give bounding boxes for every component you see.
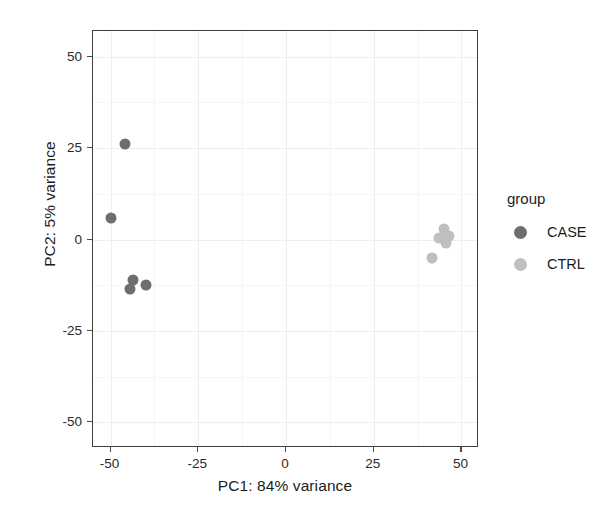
gridline-horizontal-minor [93, 194, 477, 195]
gridline-horizontal [93, 148, 477, 149]
plot-panel [92, 30, 478, 447]
gridline-vertical-minor [242, 31, 243, 446]
y-tick-mark [87, 56, 92, 57]
gridline-vertical-minor [154, 31, 155, 446]
pca-scatter-plot: PC2: 5% variance -50-2502550-50-2502550 … [0, 0, 609, 516]
y-tick-mark [87, 147, 92, 148]
y-tick-mark [87, 330, 92, 331]
x-tick-mark [197, 447, 198, 452]
data-point-ctrl [440, 238, 451, 249]
gridline-horizontal [93, 240, 477, 241]
y-tick-mark [87, 239, 92, 240]
data-point-case [105, 212, 116, 223]
gridline-vertical-minor [418, 31, 419, 446]
legend-dot [514, 258, 527, 271]
legend-dot [514, 226, 527, 239]
data-point-case [140, 280, 151, 291]
gridline-horizontal-minor [93, 377, 477, 378]
x-tick-label: 25 [365, 456, 380, 471]
gridline-vertical [461, 31, 462, 446]
legend-title: group [507, 190, 587, 207]
gridline-vertical-minor [330, 31, 331, 446]
x-tick-label: 0 [281, 456, 289, 471]
data-point-case [119, 139, 130, 150]
gridline-vertical [111, 31, 112, 446]
y-tick-mark [87, 421, 92, 422]
legend-item-label: CTRL [547, 256, 585, 272]
y-tick-label: 50 [14, 48, 82, 63]
x-tick-mark [460, 447, 461, 452]
legend-item-label: CASE [547, 224, 587, 240]
data-point-case [124, 283, 135, 294]
x-tick-mark [110, 447, 111, 452]
gridline-horizontal [93, 422, 477, 423]
gridline-vertical [198, 31, 199, 446]
x-axis-title: PC1: 84% variance [92, 477, 478, 495]
legend: group CASECTRL [507, 190, 587, 283]
gridline-horizontal [93, 331, 477, 332]
data-point-ctrl [426, 252, 437, 263]
x-tick-mark [285, 447, 286, 452]
x-tick-label: 50 [453, 456, 468, 471]
x-tick-mark [373, 447, 374, 452]
y-tick-label: -25 [14, 322, 82, 337]
gridline-horizontal-minor [93, 102, 477, 103]
legend-swatch-circle-icon [507, 226, 533, 239]
y-tick-label: 25 [14, 140, 82, 155]
legend-item-case[interactable]: CASE [507, 219, 587, 245]
legend-item-ctrl[interactable]: CTRL [507, 251, 587, 277]
x-tick-label: -50 [100, 456, 120, 471]
x-tick-label: -25 [188, 456, 208, 471]
y-tick-label: -50 [14, 414, 82, 429]
gridline-vertical [374, 31, 375, 446]
y-tick-label: 0 [14, 231, 82, 246]
gridline-horizontal [93, 57, 477, 58]
legend-swatch-circle-icon [507, 258, 533, 271]
legend-items: CASECTRL [507, 219, 587, 277]
gridline-vertical [286, 31, 287, 446]
